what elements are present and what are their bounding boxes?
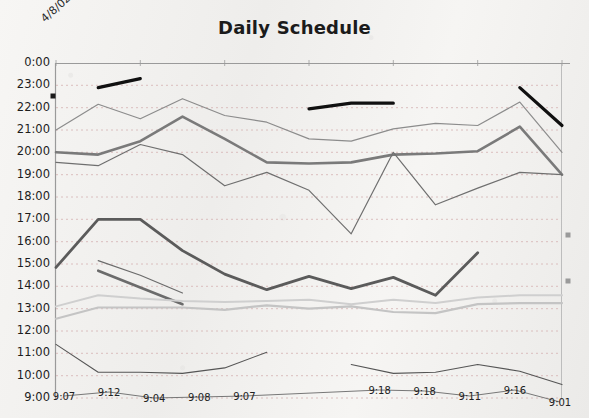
chart-container: Daily Schedule 4/8/02 0:0023:0022:0021:0…	[0, 0, 589, 418]
data-point-label: 9:16	[504, 385, 526, 396]
axis-marker-right-lower	[566, 279, 571, 284]
data-label-connector-line	[64, 390, 560, 402]
series-line	[98, 79, 140, 88]
series-line	[56, 303, 562, 319]
data-point-label: 9:07	[233, 391, 255, 402]
data-point-label: 9:12	[98, 387, 120, 398]
data-point-label: 9:18	[368, 385, 390, 396]
axis-markers-group	[51, 94, 571, 284]
series-line	[520, 88, 562, 126]
data-point-label: 9:01	[549, 397, 571, 408]
data-point-label: 9:08	[188, 392, 210, 403]
plot-area	[0, 0, 589, 418]
data-point-label: 9:18	[413, 386, 435, 397]
series-line	[56, 117, 562, 175]
gridlines-group	[56, 85, 562, 398]
data-point-label: 9:04	[143, 393, 165, 404]
data-point-label: 9:11	[459, 391, 481, 402]
data-point-label: 9:07	[53, 391, 75, 402]
series-line	[351, 365, 562, 385]
series-line	[56, 344, 267, 373]
axis-marker-right-upper	[566, 233, 571, 238]
series-line	[56, 219, 478, 295]
axis-marker-left	[51, 94, 56, 99]
